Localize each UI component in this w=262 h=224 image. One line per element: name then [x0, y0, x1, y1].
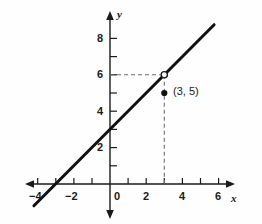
x-axis-left-arrowhead — [25, 180, 34, 188]
line-graph — [34, 25, 214, 206]
y-tick-label-4: 4 — [97, 106, 103, 117]
open-point-marker — [161, 72, 167, 78]
x-tick-label-2: 2 — [143, 191, 149, 202]
x-tick-label-0: 0 — [114, 191, 120, 202]
x-axis-label: x — [231, 193, 237, 204]
y-axis-ticks — [110, 38, 117, 165]
x-tick-label-6: 6 — [215, 191, 221, 202]
point-annotation-3-5: (3, 5) — [173, 86, 199, 97]
y-axis-down-arrowhead — [106, 210, 114, 219]
x-axis-right-arrowhead — [226, 180, 235, 188]
x-tick-label-4: 4 — [179, 191, 185, 202]
y-tick-label-2: 2 — [97, 142, 103, 153]
y-tick-label-8: 8 — [97, 33, 103, 44]
graph-figure: 8 6 4 2 −4 −2 0 2 4 6 y x (3, 5) — [0, 0, 262, 224]
y-tick-label-6: 6 — [97, 69, 103, 80]
y-axis-label: y — [117, 9, 122, 20]
x-axis-ticks — [38, 178, 219, 184]
y-axis-up-arrowhead — [106, 11, 114, 20]
x-tick-label-neg2: −2 — [65, 191, 78, 202]
x-tick-label-neg4: −4 — [29, 191, 42, 202]
filled-point-marker — [161, 90, 167, 96]
